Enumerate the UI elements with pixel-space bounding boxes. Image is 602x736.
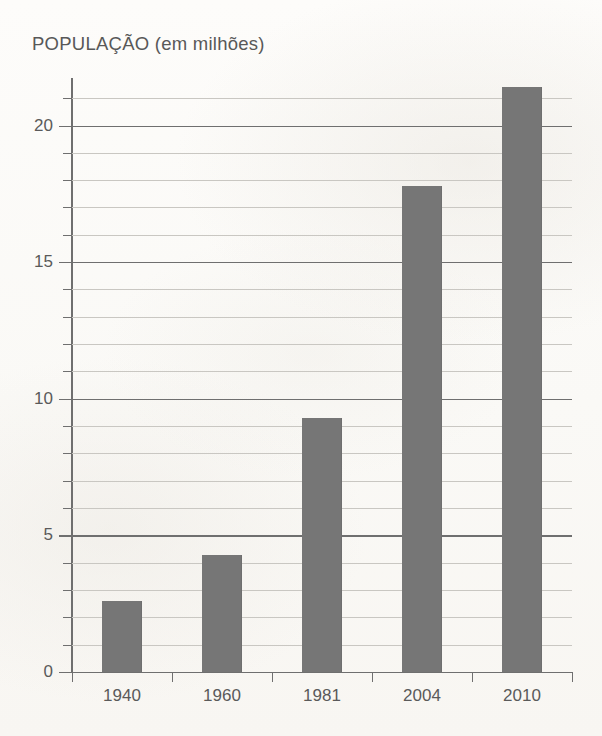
y-tick-mark <box>59 672 72 673</box>
x-axis-label-1981: 1981 <box>303 686 341 706</box>
y-tick-mark <box>59 262 72 263</box>
bar-slot: 1981 <box>272 79 372 672</box>
y-axis-label: 15 <box>34 252 53 272</box>
y-tick-mark <box>63 344 72 345</box>
y-tick-mark <box>63 180 72 181</box>
bar-2010[interactable] <box>502 87 542 672</box>
y-axis-label: 10 <box>34 388 53 408</box>
y-tick-mark <box>63 617 72 618</box>
y-tick-mark <box>63 426 72 427</box>
y-tick-mark <box>63 481 72 482</box>
x-axis-label-1940: 1940 <box>103 686 141 706</box>
plot-area: 05101520 19401960198120042010 <box>72 79 572 672</box>
y-tick-mark <box>63 371 72 372</box>
y-tick-mark <box>59 535 72 536</box>
x-tick-mark <box>372 672 373 682</box>
x-axis-label-2010: 2010 <box>503 686 541 706</box>
y-tick-mark <box>59 399 72 400</box>
y-tick-mark <box>63 645 72 646</box>
y-tick-mark <box>63 153 72 154</box>
bar-slot: 2010 <box>472 79 572 672</box>
bar-2004[interactable] <box>402 186 442 672</box>
y-tick-mark <box>63 289 72 290</box>
y-axis-label: 20 <box>34 115 53 135</box>
y-tick-mark <box>59 126 72 127</box>
x-tick-mark <box>72 672 73 682</box>
bar-slot: 2004 <box>372 79 472 672</box>
y-tick-mark <box>63 98 72 99</box>
y-tick-mark <box>63 453 72 454</box>
y-axis-label: 0 <box>44 662 53 682</box>
bar-1981[interactable] <box>302 418 342 672</box>
bar-1960[interactable] <box>202 555 242 673</box>
x-tick-mark <box>172 672 173 682</box>
chart-title: POPULAÇÃO (em milhões) <box>32 33 265 55</box>
y-tick-mark <box>63 508 72 509</box>
y-tick-mark <box>63 207 72 208</box>
y-tick-mark <box>63 235 72 236</box>
gridline-major: 0 <box>72 672 572 673</box>
x-tick-mark <box>472 672 473 682</box>
y-axis-label: 5 <box>44 525 53 545</box>
y-tick-mark <box>63 317 72 318</box>
bar-slot: 1940 <box>72 79 172 672</box>
bar-1940[interactable] <box>102 601 142 672</box>
y-tick-mark <box>63 563 72 564</box>
x-tick-mark <box>272 672 273 682</box>
x-axis-label-1960: 1960 <box>203 686 241 706</box>
y-tick-mark <box>63 590 72 591</box>
x-tick-mark-end <box>572 672 573 682</box>
x-axis-label-2004: 2004 <box>403 686 441 706</box>
bar-slot: 1960 <box>172 79 272 672</box>
